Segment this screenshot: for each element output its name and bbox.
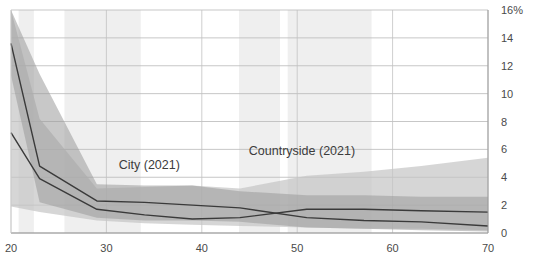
y-tick-label: 16% <box>501 4 523 16</box>
x-tick-label: 30 <box>100 242 112 254</box>
x-tick-label: 50 <box>291 242 303 254</box>
x-tick-label: 60 <box>386 242 398 254</box>
y-tick-label: 12 <box>501 60 513 72</box>
y-tick-label: 4 <box>501 171 507 183</box>
y-tick-label: 8 <box>501 116 507 128</box>
y-tick-label: 6 <box>501 143 507 155</box>
series-annotation: City (2021) <box>119 158 180 172</box>
y-tick-label: 10 <box>501 88 513 100</box>
series-annotation: Countryside (2021) <box>249 144 355 158</box>
x-tick-label: 20 <box>5 242 17 254</box>
y-tick-label: 14 <box>501 32 513 44</box>
chart-container: 0246810121416% 203040506070 City (2021)C… <box>0 0 548 259</box>
y-tick-label: 2 <box>501 199 507 211</box>
line-chart-with-confidence-bands: 0246810121416% 203040506070 City (2021)C… <box>0 0 548 259</box>
y-tick-label: 0 <box>501 227 507 239</box>
x-tick-label: 70 <box>482 242 494 254</box>
x-tick-label: 40 <box>196 242 208 254</box>
